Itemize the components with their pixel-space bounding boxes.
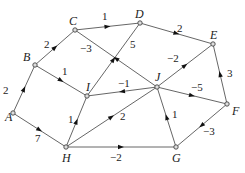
edge-weight-label: 2 [120, 110, 126, 122]
edge-weight-label: −3 [203, 125, 215, 137]
node-B [33, 63, 37, 67]
edge-weight-label: −2 [110, 151, 122, 163]
node-E [211, 42, 215, 46]
edge-weight-label: −3 [80, 42, 92, 54]
edges-layer: 22121−35−1172−21−33−2−5 [3, 10, 233, 163]
edge-weight-label: 5 [130, 38, 136, 50]
edge-weight-label: 2 [177, 22, 183, 34]
arrow-icon [118, 145, 124, 149]
arrow-icon [57, 77, 64, 84]
node-G [174, 145, 178, 149]
edge-weight-label: 2 [3, 84, 9, 96]
edge-weight-label: −5 [191, 81, 203, 93]
graph-diagram: 22121−35−1172−21−33−2−5 ABCDEFGHIJ [0, 0, 245, 173]
arrow-icon [104, 24, 110, 29]
node-I [85, 94, 89, 98]
node-label: B [23, 50, 31, 64]
node-label: G [172, 151, 181, 165]
edge-weight-label: 3 [227, 67, 233, 79]
arrow-icon [21, 85, 27, 92]
node-D [138, 21, 142, 25]
arrow-icon [108, 114, 115, 121]
node-label: D [134, 7, 144, 21]
node-label: J [155, 70, 161, 84]
node-F [225, 102, 229, 106]
node-label: H [61, 151, 72, 165]
edge-weight-label: 2 [44, 38, 50, 50]
node-H [64, 145, 68, 149]
arrow-icon [73, 118, 79, 125]
edge-weight-label: −2 [167, 52, 179, 64]
node-label: E [209, 28, 218, 42]
edge-weight-label: 7 [35, 132, 41, 144]
edge-weight-label: −1 [118, 77, 130, 89]
arrow-icon [189, 93, 196, 99]
node-J [155, 85, 159, 89]
node-label: C [69, 14, 78, 28]
arrow-icon [163, 113, 169, 120]
edge-weight-label: 1 [62, 65, 68, 77]
edge-weight-label: 1 [68, 113, 74, 125]
edge-weight-label: 1 [102, 10, 108, 22]
node-C [73, 28, 77, 32]
arrow-icon [217, 71, 223, 78]
node-label: A [4, 110, 13, 124]
node-label: F [231, 104, 240, 118]
edge-weight-label: 1 [172, 108, 178, 120]
